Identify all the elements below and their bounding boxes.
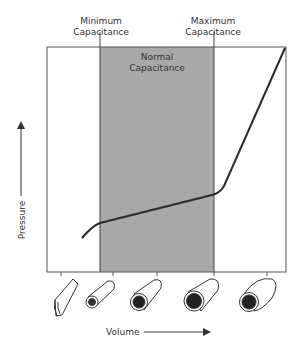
min-capacitance-label-2: Capacitance [73, 27, 129, 37]
medium-lumen-vessel-icon [131, 280, 162, 311]
normal-capacitance-region [100, 47, 214, 272]
volume-arrow-head [203, 328, 211, 336]
x-axis-ticks [61, 272, 267, 276]
max-capacitance-label-2: Capacitance [185, 27, 241, 37]
collapsed-vessel-icon [54, 279, 78, 316]
max-capacitance-label-1: Maximum [191, 16, 235, 26]
distended-vessel-icon [240, 279, 277, 312]
pressure-arrow-head [17, 121, 25, 129]
normal-capacitance-label-1: Normal [141, 52, 174, 62]
min-capacitance-label-1: Minimum [80, 16, 122, 26]
normal-capacitance-label-2: Capacitance [129, 63, 185, 73]
large-lumen-vessel-icon [184, 279, 219, 311]
x-axis-label: Volume [106, 327, 140, 337]
y-axis-label: Pressure [17, 200, 27, 239]
capacitance-diagram: Minimum Capacitance Maximum Capacitance … [0, 0, 301, 353]
small-lumen-vessel-icon [86, 281, 114, 308]
